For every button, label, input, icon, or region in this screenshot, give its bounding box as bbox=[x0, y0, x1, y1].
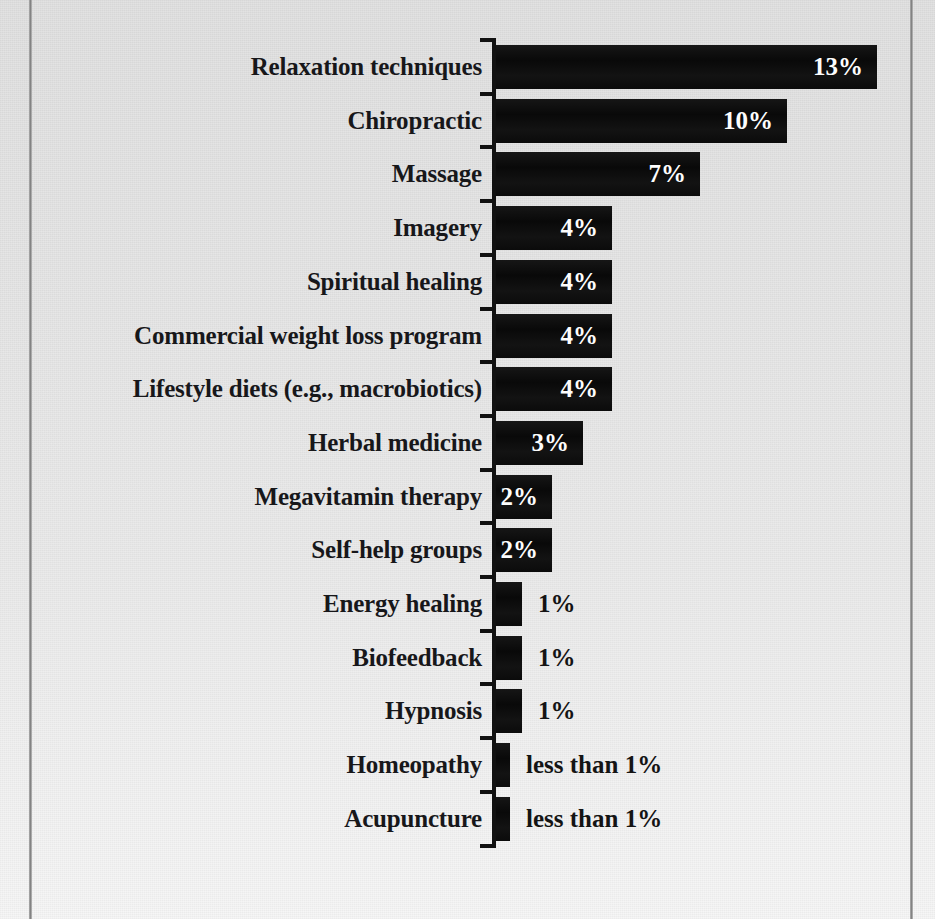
bar-row: Imagery4% bbox=[0, 201, 935, 255]
bar-row: Relaxation techniques13% bbox=[0, 40, 935, 94]
axis-tick bbox=[480, 521, 496, 525]
axis-tick bbox=[480, 575, 496, 579]
category-label: Acupuncture bbox=[344, 792, 482, 846]
category-label: Massage bbox=[392, 147, 482, 201]
bar-value-label: 4% bbox=[496, 367, 598, 411]
category-label: Chiropractic bbox=[347, 94, 482, 148]
bar bbox=[496, 797, 510, 841]
category-label: Megavitamin therapy bbox=[255, 470, 482, 524]
chart-page: Relaxation techniques13%Chiropractic10%M… bbox=[0, 0, 935, 919]
axis-tick bbox=[480, 844, 496, 848]
bar-row: Acupunctureless than 1% bbox=[0, 792, 935, 846]
bar-row: Herbal medicine3% bbox=[0, 416, 935, 470]
bar bbox=[496, 636, 522, 680]
category-label: Homeopathy bbox=[346, 738, 482, 792]
bar-value-label: 1% bbox=[538, 582, 576, 626]
axis-tick bbox=[480, 682, 496, 686]
axis-tick bbox=[480, 629, 496, 633]
bar-value-label: 2% bbox=[496, 475, 538, 519]
horizontal-bar-chart: Relaxation techniques13%Chiropractic10%M… bbox=[0, 0, 935, 919]
category-label: Energy healing bbox=[323, 577, 482, 631]
axis-tick bbox=[480, 145, 496, 149]
axis-tick bbox=[480, 736, 496, 740]
axis-tick bbox=[480, 253, 496, 257]
bar-row: Commercial weight loss program4% bbox=[0, 309, 935, 363]
category-label: Lifestyle diets (e.g., macrobiotics) bbox=[133, 362, 482, 416]
bar-value-label: 1% bbox=[538, 689, 576, 733]
bar-value-label: 2% bbox=[496, 528, 538, 572]
bar-value-label: 4% bbox=[496, 260, 598, 304]
category-label: Herbal medicine bbox=[308, 416, 482, 470]
bar-value-label: 4% bbox=[496, 314, 598, 358]
category-label: Spiritual healing bbox=[307, 255, 482, 309]
bar-row: Self-help groups2% bbox=[0, 523, 935, 577]
bar-value-label: 7% bbox=[496, 152, 686, 196]
axis-tick bbox=[480, 790, 496, 794]
category-label: Hypnosis bbox=[385, 684, 482, 738]
bar-row: Chiropractic10% bbox=[0, 94, 935, 148]
bar bbox=[496, 582, 522, 626]
category-label: Self-help groups bbox=[311, 523, 482, 577]
category-label: Commercial weight loss program bbox=[134, 309, 482, 363]
bar-row: Biofeedback1% bbox=[0, 631, 935, 685]
bar-row: Energy healing1% bbox=[0, 577, 935, 631]
category-label: Biofeedback bbox=[352, 631, 482, 685]
bar-value-label: 3% bbox=[496, 421, 569, 465]
bar-row: Massage7% bbox=[0, 147, 935, 201]
bar bbox=[496, 689, 522, 733]
bar-value-label: 10% bbox=[496, 99, 773, 143]
axis-tick bbox=[480, 307, 496, 311]
bar-value-label: less than 1% bbox=[526, 797, 662, 841]
bar-row: Spiritual healing4% bbox=[0, 255, 935, 309]
axis-tick bbox=[480, 360, 496, 364]
bar-value-label: less than 1% bbox=[526, 743, 662, 787]
axis-tick bbox=[480, 199, 496, 203]
bar-row: Hypnosis1% bbox=[0, 684, 935, 738]
bar bbox=[496, 743, 510, 787]
category-label: Imagery bbox=[393, 201, 482, 255]
bar-value-label: 1% bbox=[538, 636, 576, 680]
category-label: Relaxation techniques bbox=[251, 40, 482, 94]
axis-tick bbox=[480, 468, 496, 472]
axis-tick bbox=[480, 38, 496, 42]
bar-row: Megavitamin therapy2% bbox=[0, 470, 935, 524]
bar-row: Homeopathyless than 1% bbox=[0, 738, 935, 792]
bar-value-label: 13% bbox=[496, 45, 863, 89]
axis-tick bbox=[480, 414, 496, 418]
axis-tick bbox=[480, 92, 496, 96]
bar-row: Lifestyle diets (e.g., macrobiotics)4% bbox=[0, 362, 935, 416]
bar-value-label: 4% bbox=[496, 206, 598, 250]
